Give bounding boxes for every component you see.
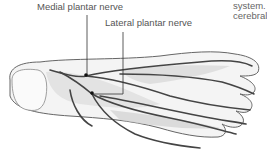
lateral-nerve-marker [90,91,94,95]
medial-nerve-marker [84,73,88,77]
foot-illustration [0,0,267,153]
